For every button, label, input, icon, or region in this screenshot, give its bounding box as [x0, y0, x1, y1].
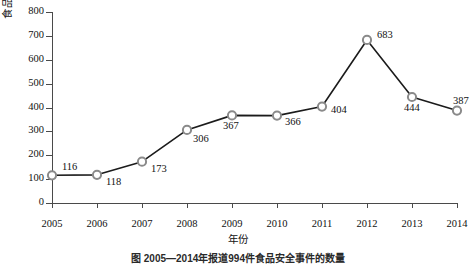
data-point-marker — [93, 171, 101, 179]
data-point-marker — [318, 102, 326, 110]
data-point-label: 173 — [151, 163, 167, 174]
figure-caption: 图 2005—2014年报道994件食品安全事件的数量 — [0, 250, 476, 265]
data-point-label: 387 — [453, 95, 469, 106]
series-polyline — [52, 40, 457, 175]
data-point-marker — [453, 107, 461, 115]
data-point-marker — [183, 126, 191, 134]
data-point-marker — [408, 93, 416, 101]
data-point-marker — [363, 36, 371, 44]
data-point-label: 116 — [62, 161, 77, 172]
series-markers — [48, 36, 461, 180]
data-point-label: 444 — [404, 102, 420, 113]
data-point-label: 118 — [106, 176, 121, 187]
data-point-marker — [138, 158, 146, 166]
data-point-label: 404 — [331, 104, 347, 115]
data-point-marker — [228, 111, 236, 119]
data-point-label: 306 — [193, 133, 209, 144]
data-point-label: 367 — [223, 120, 239, 131]
data-point-marker — [273, 112, 281, 120]
data-point-label: 683 — [377, 29, 393, 40]
data-point-marker — [48, 171, 56, 179]
data-point-label: 366 — [285, 116, 301, 127]
